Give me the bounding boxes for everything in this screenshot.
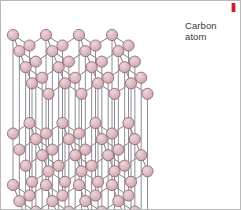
carbon-atom <box>37 150 48 161</box>
carbon-atom <box>24 190 35 201</box>
carbon-atom <box>57 117 68 128</box>
carbon-atom <box>76 166 87 177</box>
carbon-atom <box>40 29 51 40</box>
carbon-atom <box>106 128 117 139</box>
carbon-atom <box>96 56 107 67</box>
carbon-atom <box>90 40 101 51</box>
carbon-atom-label: Carbon atom <box>185 20 217 42</box>
carbon-atom <box>123 117 134 128</box>
carbon-atom <box>136 72 147 83</box>
carbon-atom <box>7 179 18 190</box>
carbon-atom <box>119 160 130 171</box>
carbon-atom <box>53 62 64 73</box>
carbon-atom <box>123 40 134 51</box>
carbon-atom <box>20 160 31 171</box>
carbon-atom <box>14 144 25 155</box>
carbon-atom <box>24 117 35 128</box>
carbon-atom <box>90 117 101 128</box>
carbon-atom <box>80 196 91 207</box>
carbon-atom <box>14 46 25 57</box>
carbon-atom <box>103 72 114 83</box>
carbon-atom <box>129 56 140 67</box>
carbon-atom <box>119 62 130 73</box>
carbon-atom <box>59 176 70 187</box>
carbon-atom <box>90 190 101 201</box>
carbon-atom <box>106 29 117 40</box>
carbon-atom <box>109 166 120 177</box>
carbon-atom <box>26 78 37 89</box>
carbon-atom <box>63 56 74 67</box>
carbon-atom <box>113 144 124 155</box>
graphite-structure-figure: Carbon atom <box>0 0 241 210</box>
carbon-atom <box>92 176 103 187</box>
carbon-atom <box>47 144 58 155</box>
carbon-atom <box>14 196 25 207</box>
carbon-atom <box>30 134 41 145</box>
carbon-atom <box>37 72 48 83</box>
carbon-atom <box>109 88 120 99</box>
carbon-atom <box>136 150 147 161</box>
carbon-atom <box>73 128 84 139</box>
carbon-atom <box>92 78 103 89</box>
carbon-atom <box>113 46 124 57</box>
carbon-atom <box>125 78 136 89</box>
carbon-atom <box>80 46 91 57</box>
carbon-atom <box>129 134 140 145</box>
carbon-atom <box>43 166 54 177</box>
carbon-atom <box>7 29 18 40</box>
carbon-atom <box>73 29 84 40</box>
carbon-atom <box>7 128 18 139</box>
carbon-atom <box>47 196 58 207</box>
carbon-atom <box>70 72 81 83</box>
carbon-atom <box>80 144 91 155</box>
carbon-atom <box>70 150 81 161</box>
carbon-atom <box>142 166 153 177</box>
carbon-atom <box>86 160 97 171</box>
carbon-atom <box>103 150 114 161</box>
carbon-atom <box>20 62 31 73</box>
carbon-atom <box>106 179 117 190</box>
carbon-atom <box>125 176 136 187</box>
carbon-atom <box>40 128 51 139</box>
carbon-atom <box>113 196 124 207</box>
carbon-atom <box>76 88 87 99</box>
carbon-atom <box>57 40 68 51</box>
carbon-atom <box>47 46 58 57</box>
carbon-atom <box>63 134 74 145</box>
carbon-atom <box>57 190 68 201</box>
red-mark-icon <box>231 3 236 13</box>
carbon-atom <box>142 88 153 99</box>
carbon-atom <box>43 88 54 99</box>
carbon-atom <box>123 190 134 201</box>
carbon-atom <box>86 62 97 73</box>
carbon-atom <box>53 160 64 171</box>
carbon-atom <box>96 134 107 145</box>
carbon-atom <box>59 78 70 89</box>
carbon-atom <box>24 40 35 51</box>
carbon-atom <box>30 56 41 67</box>
carbon-atom <box>40 179 51 190</box>
carbon-atom <box>26 176 37 187</box>
carbon-atom <box>73 179 84 190</box>
